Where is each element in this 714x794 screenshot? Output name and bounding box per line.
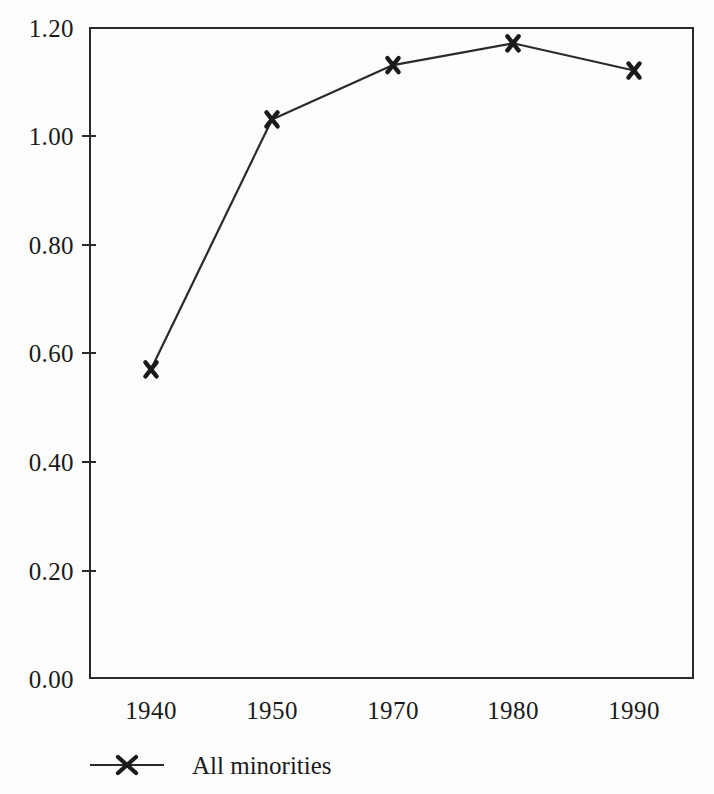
y-tick-label: 0.80 xyxy=(29,233,74,258)
y-tick-mark xyxy=(82,135,96,137)
x-tick-label: 1940 xyxy=(125,698,177,723)
y-tick-label: 0.60 xyxy=(29,341,74,366)
chart-figure: 1.20 1.00 0.80 0.60 0.40 0.20 0.00 1940 … xyxy=(0,0,714,794)
x-tick-label: 1990 xyxy=(608,698,660,723)
x-tick-label: 1980 xyxy=(487,698,539,723)
x-tick-label: 1970 xyxy=(367,698,419,723)
y-tick-mark xyxy=(82,570,96,572)
y-tick-label: 1.20 xyxy=(29,16,74,41)
x-tick-label: 1950 xyxy=(246,698,298,723)
y-tick-label: 0.40 xyxy=(29,450,74,475)
legend-label: All minorities xyxy=(192,753,332,778)
x-marker-icon xyxy=(88,751,166,779)
y-tick-mark xyxy=(82,352,96,354)
legend: All minorities xyxy=(88,748,332,782)
y-tick-label: 0.00 xyxy=(29,667,74,692)
y-tick-label: 0.20 xyxy=(29,559,74,584)
y-axis-labels: 1.20 1.00 0.80 0.60 0.40 0.20 0.00 xyxy=(0,0,74,794)
y-tick-mark xyxy=(82,244,96,246)
y-tick-mark xyxy=(82,461,96,463)
plot-area xyxy=(89,27,694,679)
legend-swatch-all-minorities xyxy=(88,751,166,779)
y-tick-label: 1.00 xyxy=(29,124,74,149)
